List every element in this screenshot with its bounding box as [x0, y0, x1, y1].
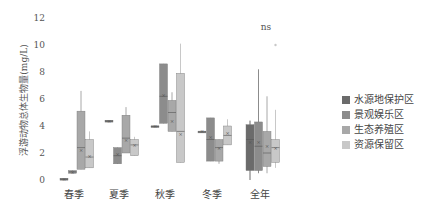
mean-marker-icon: × — [107, 118, 111, 124]
significance-label: ns — [261, 22, 272, 32]
box: × — [151, 123, 159, 129]
mean-marker-icon: × — [273, 145, 277, 151]
y-tick-label: 6 — [39, 94, 45, 104]
legend: 水源地保护区 景观娱乐区 生态养殖区 资源保留区 — [342, 92, 414, 152]
box: × — [60, 176, 68, 182]
box: × — [69, 169, 77, 175]
outlier-point — [274, 44, 276, 46]
box: × — [122, 107, 130, 153]
y-tick-label: 8 — [39, 67, 45, 77]
mean-marker-icon: × — [265, 143, 269, 149]
legend-swatch-icon — [342, 141, 350, 149]
legend-label: 景观娱乐区 — [354, 107, 404, 122]
legend-label: 水源地保护区 — [354, 92, 414, 107]
box: × — [246, 121, 254, 180]
legend-item: 水源地保护区 — [342, 92, 414, 107]
box: × — [160, 64, 168, 123]
mean-marker-icon: × — [217, 145, 221, 151]
box: × — [177, 44, 185, 163]
box-body — [246, 125, 254, 171]
mean-marker-icon: × — [170, 118, 174, 124]
mean-marker-icon: × — [132, 142, 136, 148]
legend-label: 资源保留区 — [354, 137, 404, 152]
box-groups: ×××××××××××××××××××× — [60, 44, 280, 182]
mean-marker-icon: × — [200, 128, 204, 134]
box: × — [207, 118, 215, 161]
box-body — [168, 100, 176, 131]
box: × — [198, 128, 206, 134]
box: × — [263, 96, 271, 173]
mean-marker-icon: × — [256, 139, 260, 145]
box-body — [77, 111, 85, 169]
mean-marker-icon: × — [248, 139, 252, 145]
x-axis-labels: 春季夏季秋季冬季全年 — [64, 188, 270, 200]
box-body — [122, 115, 130, 153]
mean-marker-icon: × — [62, 176, 66, 182]
legend-swatch-icon — [342, 111, 350, 119]
mean-marker-icon: × — [178, 131, 182, 137]
box: × — [168, 92, 176, 131]
mean-marker-icon: × — [79, 147, 83, 153]
y-axis-label: 浮游动物总体生物量(mg/L) — [18, 44, 29, 155]
box: × — [272, 44, 280, 168]
box: × — [255, 69, 263, 173]
box: × — [224, 119, 232, 145]
mean-marker-icon: × — [87, 153, 91, 159]
legend-item: 生态养殖区 — [342, 122, 414, 137]
x-tick-label: 秋季 — [155, 188, 175, 200]
y-tick-label: 2 — [39, 148, 45, 158]
mean-marker-icon: × — [115, 151, 119, 157]
y-tick-label: 12 — [34, 13, 45, 23]
box: × — [131, 137, 139, 156]
y-tick-label: 10 — [34, 40, 46, 50]
x-tick-label: 冬季 — [202, 188, 222, 200]
legend-swatch-icon — [342, 126, 350, 134]
legend-item: 景观娱乐区 — [342, 107, 414, 122]
mean-marker-icon: × — [124, 137, 128, 143]
mean-marker-icon: × — [208, 134, 212, 140]
box: × — [77, 91, 85, 169]
x-tick-label: 夏季 — [109, 189, 129, 200]
box: × — [86, 131, 94, 167]
y-axis-ticks: 024681012 — [34, 13, 46, 185]
box: × — [215, 140, 223, 164]
legend-swatch-icon — [342, 96, 350, 104]
legend-label: 生态养殖区 — [354, 122, 404, 137]
box-body — [177, 73, 185, 162]
mean-marker-icon: × — [153, 123, 157, 129]
box: × — [114, 148, 122, 164]
box-body — [272, 140, 280, 163]
mean-marker-icon: × — [70, 169, 74, 175]
legend-item: 资源保留区 — [342, 137, 414, 152]
y-tick-label: 0 — [39, 175, 45, 185]
annotations: ns — [261, 22, 272, 32]
box: × — [105, 118, 113, 124]
x-tick-label: 春季 — [64, 189, 84, 200]
x-tick-label: 全年 — [250, 188, 270, 200]
mean-marker-icon: × — [161, 92, 165, 98]
mean-marker-icon: × — [225, 130, 229, 136]
y-tick-label: 4 — [39, 121, 45, 131]
